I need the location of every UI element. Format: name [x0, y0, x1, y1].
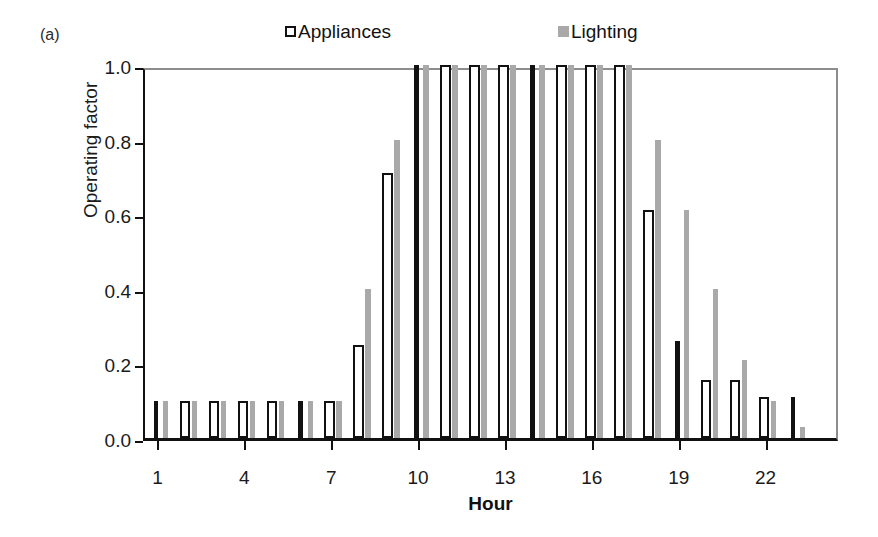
bar-lighting-hour-1 [163, 401, 169, 438]
bar-lighting-hour-21 [742, 360, 748, 438]
bar-lighting-hour-14 [539, 65, 545, 438]
bar-lighting-hour-7 [336, 401, 342, 438]
legend-entry-lighting: Lighting [558, 22, 638, 41]
panel-label: (a) [40, 26, 60, 44]
bar-lighting-hour-5 [279, 401, 285, 438]
bar-appliances-hour-1 [154, 401, 159, 438]
x-tick-mark-13 [505, 441, 507, 450]
x-axis-title: Hour [143, 493, 838, 515]
x-axis: Hour 1471013161922 [143, 441, 838, 511]
y-tick-label-0.2: 0.2 [105, 355, 131, 377]
legend-label-lighting: Lighting [571, 22, 638, 41]
bar-appliances-hour-7 [324, 401, 335, 438]
bar-appliances-hour-23 [791, 397, 796, 438]
bar-appliances-hour-6 [298, 401, 303, 438]
chart-legend: Appliances Lighting [143, 22, 838, 54]
bar-lighting-hour-13 [510, 65, 516, 438]
y-tick-label-0.6: 0.6 [105, 206, 131, 228]
bar-lighting-hour-2 [192, 401, 198, 438]
open-square-icon [285, 26, 296, 37]
bar-appliances-hour-21 [730, 380, 741, 438]
x-tick-mark-1 [157, 441, 159, 450]
bar-appliances-hour-19 [675, 341, 680, 438]
x-tick-label-4: 4 [239, 467, 250, 489]
x-tick-label-1: 1 [152, 467, 163, 489]
x-tick-mark-10 [418, 441, 420, 450]
bar-appliances-hour-20 [701, 380, 712, 438]
bar-lighting-hour-3 [221, 401, 227, 438]
bar-appliances-hour-17 [614, 65, 625, 438]
bars-container [145, 70, 836, 438]
bar-lighting-hour-6 [308, 401, 314, 438]
y-tick-label-0.0: 0.0 [105, 430, 131, 452]
y-tick-mark-0.4 [135, 292, 143, 294]
x-tick-label-16: 16 [581, 467, 602, 489]
x-tick-mark-4 [244, 441, 246, 450]
bar-appliances-hour-14 [530, 65, 535, 438]
y-tick-label-1.0: 1.0 [105, 57, 131, 79]
bar-lighting-hour-9 [394, 140, 400, 438]
bar-lighting-hour-12 [481, 65, 487, 438]
bar-appliances-hour-11 [440, 65, 451, 438]
x-tick-label-19: 19 [668, 467, 689, 489]
y-tick-label-0.8: 0.8 [105, 132, 131, 154]
bar-appliances-hour-5 [267, 401, 278, 438]
x-tick-mark-7 [331, 441, 333, 450]
y-axis-title: Operating factor [80, 82, 102, 218]
bar-lighting-hour-11 [452, 65, 458, 438]
x-tick-label-10: 10 [408, 467, 429, 489]
y-tick-mark-0.8 [135, 143, 143, 145]
bar-appliances-hour-22 [759, 397, 770, 438]
bar-lighting-hour-18 [655, 140, 661, 438]
y-tick-label-0.4: 0.4 [105, 281, 131, 303]
bar-appliances-hour-4 [238, 401, 249, 438]
bar-lighting-hour-19 [684, 210, 690, 438]
bar-appliances-hour-13 [498, 65, 509, 438]
x-tick-label-13: 13 [494, 467, 515, 489]
bar-lighting-hour-17 [626, 65, 632, 438]
bar-lighting-hour-23 [800, 427, 806, 438]
x-tick-label-7: 7 [326, 467, 337, 489]
bar-lighting-hour-10 [423, 65, 429, 438]
bar-lighting-hour-4 [250, 401, 256, 438]
bar-lighting-hour-22 [771, 401, 777, 438]
x-tick-mark-16 [592, 441, 594, 450]
bar-lighting-hour-8 [365, 289, 371, 438]
figure-panel-a: (a) Appliances Lighting Operating factor… [0, 0, 878, 537]
bar-lighting-hour-20 [713, 289, 719, 438]
bar-appliances-hour-10 [414, 65, 419, 438]
filled-square-icon [558, 26, 569, 37]
bar-lighting-hour-16 [597, 65, 603, 438]
y-tick-mark-1.0 [135, 68, 143, 70]
bar-lighting-hour-15 [568, 65, 574, 438]
bar-appliances-hour-12 [469, 65, 480, 438]
y-axis: Operating factor 0.00.20.40.60.81.0 [68, 68, 143, 441]
bar-appliances-hour-15 [556, 65, 567, 438]
x-tick-mark-22 [766, 441, 768, 450]
x-tick-label-22: 22 [755, 467, 776, 489]
plot-area [143, 68, 838, 441]
bar-appliances-hour-8 [353, 345, 364, 438]
y-tick-mark-0.0 [135, 441, 143, 443]
y-tick-mark-0.6 [135, 217, 143, 219]
bar-appliances-hour-18 [643, 210, 654, 438]
x-tick-mark-19 [679, 441, 681, 450]
y-tick-mark-0.2 [135, 366, 143, 368]
bar-appliances-hour-3 [209, 401, 220, 438]
legend-entry-appliances: Appliances [285, 22, 391, 41]
legend-label-appliances: Appliances [298, 22, 391, 41]
bar-appliances-hour-16 [585, 65, 596, 438]
bar-appliances-hour-2 [180, 401, 191, 438]
bar-appliances-hour-9 [382, 173, 393, 438]
